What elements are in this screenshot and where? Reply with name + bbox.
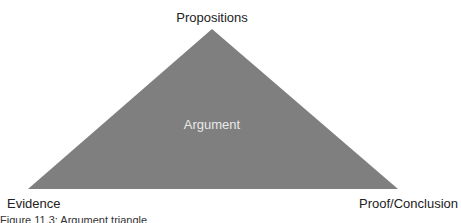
center-label: Argument <box>0 117 424 132</box>
apex-label: Propositions <box>0 10 424 25</box>
figure-caption: Figure 11.3: Argument triangle <box>0 214 147 223</box>
left-vertex-label: Evidence <box>7 196 60 211</box>
right-vertex-label: Proof/Conclusion <box>359 196 458 211</box>
argument-triangle <box>28 29 398 189</box>
triangle-diagram <box>0 0 461 223</box>
